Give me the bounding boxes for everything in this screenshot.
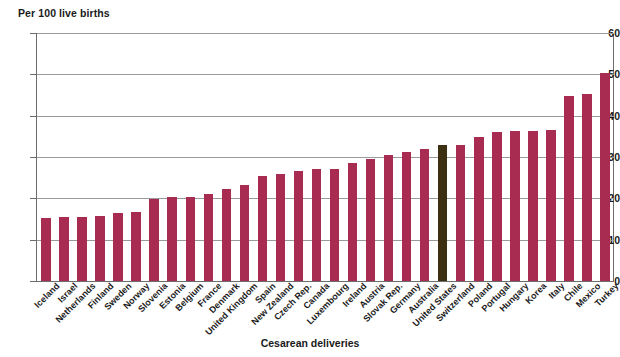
- bar-norway: [131, 212, 141, 281]
- y-tick-mark-0: [30, 281, 36, 282]
- plot-area: [37, 33, 614, 281]
- y-tick-mark-20: [30, 198, 36, 199]
- bar-estonia: [167, 197, 177, 281]
- y-axis-title: Per 100 live births: [18, 7, 110, 19]
- bar-iceland: [41, 218, 51, 281]
- cesarean-deliveries-bar-chart: Per 100 live births 0102030405060 Icelan…: [0, 0, 620, 357]
- bar-germany: [402, 152, 412, 281]
- bar-mexico: [582, 94, 592, 281]
- gridline-60: [37, 33, 614, 34]
- y-tick-mark-30: [30, 157, 36, 158]
- bar-new-zealand: [276, 174, 286, 281]
- y-tick-mark-40: [30, 116, 36, 117]
- gridline-40: [37, 116, 614, 117]
- y-tick-mark-60: [30, 33, 36, 34]
- y-tick-mark-50: [30, 74, 36, 75]
- bar-france: [204, 194, 214, 281]
- bar-slovenia: [149, 199, 159, 281]
- bar-portugal: [492, 132, 502, 281]
- x-axis-labels: IcelandIsraelNetherlandsFinlandSwedenNor…: [37, 283, 614, 343]
- bar-denmark: [222, 189, 232, 281]
- bar-spain: [258, 176, 268, 281]
- gridline-50: [37, 74, 614, 75]
- bar-israel: [59, 217, 69, 281]
- bar-czech-rep: [294, 171, 304, 281]
- bar-chile: [564, 96, 574, 281]
- bar-netherlands: [77, 217, 87, 281]
- y-tick-mark-10: [30, 240, 36, 241]
- bar-luxembourg: [330, 169, 340, 281]
- bar-hungary: [510, 131, 520, 281]
- bar-finland: [95, 216, 105, 281]
- bar-ireland: [348, 163, 358, 281]
- bar-turkey: [600, 73, 610, 281]
- bar-united-kingdom: [240, 185, 250, 281]
- x-axis-caption: Cesarean deliveries: [0, 337, 620, 349]
- bar-austria: [366, 159, 376, 281]
- bar-italy: [546, 130, 556, 281]
- bar-switzerland: [456, 145, 466, 281]
- bar-poland: [474, 137, 484, 281]
- bar-canada: [312, 169, 322, 281]
- bar-slovak-rep: [384, 155, 394, 281]
- bar-sweden: [113, 213, 123, 281]
- bar-korea: [528, 131, 538, 281]
- bar-australia: [420, 149, 430, 281]
- bar-belgium: [186, 197, 196, 281]
- bar-united-states: [438, 145, 448, 281]
